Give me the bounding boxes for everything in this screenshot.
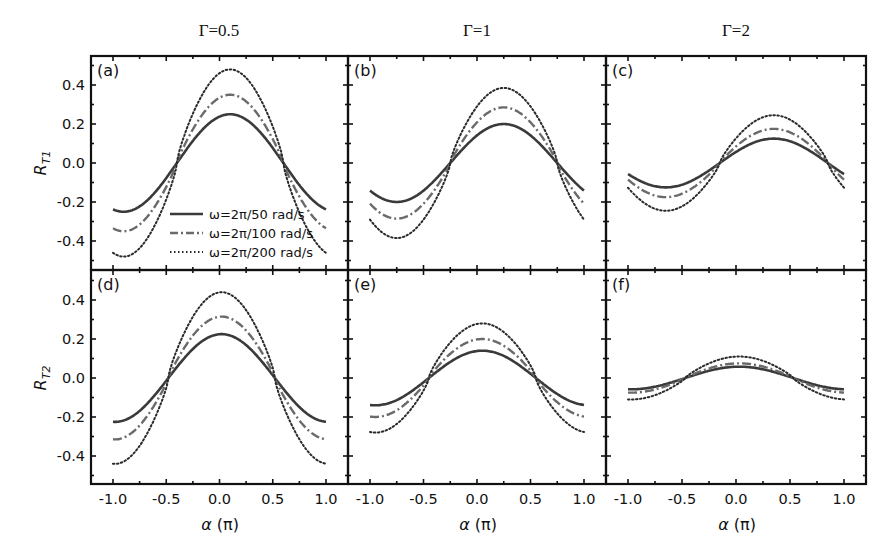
x-tick-label: 0.5 [778, 491, 801, 507]
x-tick-label: 1.0 [832, 491, 855, 507]
legend: ω=2π/50 rad/s ω=2π/100 rad/s ω=2π/200 ra… [170, 207, 313, 260]
y-tick-label: 0.4 [62, 77, 85, 93]
column-titles: Γ=0.5 Γ=1 Γ=2 [199, 21, 750, 40]
y-tick-label: -0.4 [57, 233, 85, 249]
panel-d: (d)-0.4-0.20.00.20.4-1.0-0.50.00.51.0 [57, 270, 348, 507]
y-axis-label-rt1: RT1 [31, 151, 53, 176]
y-tick-label: 0.2 [62, 116, 85, 132]
column-title-gamma-0.5: Γ=0.5 [199, 21, 240, 40]
x-tick-label: -0.5 [409, 491, 437, 507]
x-tick-label: -1.0 [99, 491, 127, 507]
x-tick-label: 1.0 [572, 491, 595, 507]
panel-grid: (a)-0.4-0.20.00.20.4(b)(c)(d)-0.4-0.20.0… [57, 56, 866, 507]
panel-c: (c) [606, 56, 866, 270]
y-tick-label: 0.2 [62, 331, 85, 347]
y-tick-label: -0.2 [57, 409, 85, 425]
column-title-gamma-2: Γ=2 [722, 21, 750, 40]
solid-line [113, 334, 326, 422]
x-tick-label: 0.0 [208, 491, 231, 507]
x-tick-label: -0.5 [668, 491, 696, 507]
x-tick-label: 0.5 [519, 491, 542, 507]
panel-label: (c) [612, 61, 633, 80]
y-axis-labels: RT1 RT2 [31, 151, 53, 391]
panel-label: (d) [97, 275, 120, 294]
x-axis-labels: α (π) α (π) α (π) [201, 515, 756, 534]
x-tick-label: 0.0 [724, 491, 747, 507]
panel-label: (f) [612, 275, 630, 294]
y-tick-label: -0.4 [57, 448, 85, 464]
x-tick-label: -1.0 [614, 491, 642, 507]
panel-e: (e)-1.0-0.50.00.51.0 [348, 270, 606, 507]
y-tick-label: 0.4 [62, 292, 85, 308]
x-axis-label-c: α (π) [718, 515, 756, 534]
y-axis-label-rt2: RT2 [31, 366, 53, 391]
x-axis-label-a: α (π) [201, 515, 239, 534]
y-tick-label: 0.0 [62, 155, 85, 171]
panel-label: (b) [354, 61, 377, 80]
dotted-line [628, 357, 844, 400]
column-title-gamma-1: Γ=1 [463, 21, 491, 40]
x-tick-label: 0.0 [465, 491, 488, 507]
x-tick-label: -0.5 [152, 491, 180, 507]
x-axis-label-b: α (π) [459, 515, 497, 534]
dotted-line [370, 88, 584, 238]
legend-label-omega-50: ω=2π/50 rad/s [209, 207, 305, 222]
panel-frame [606, 270, 866, 484]
dotted-line [113, 292, 326, 464]
panel-frame [348, 56, 606, 270]
panel-frame [348, 270, 606, 484]
legend-label-omega-200: ω=2π/200 rad/s [209, 245, 313, 260]
panel-label: (e) [354, 275, 376, 294]
x-tick-label: 1.0 [314, 491, 337, 507]
x-tick-label: -1.0 [356, 491, 384, 507]
solid-line [370, 351, 584, 406]
y-tick-label: 0.0 [62, 370, 85, 386]
panel-f: (f)-1.0-0.50.00.51.0 [606, 270, 866, 507]
solid-line [370, 124, 584, 202]
figure: Γ=0.5 Γ=1 Γ=2 (a)-0.4-0.20.00.20.4(b)(c)… [0, 0, 896, 553]
x-tick-label: 0.5 [261, 491, 284, 507]
panel-label: (a) [97, 61, 119, 80]
panel-b: (b) [348, 56, 606, 270]
legend-label-omega-100: ω=2π/100 rad/s [209, 226, 313, 241]
y-tick-label: -0.2 [57, 194, 85, 210]
